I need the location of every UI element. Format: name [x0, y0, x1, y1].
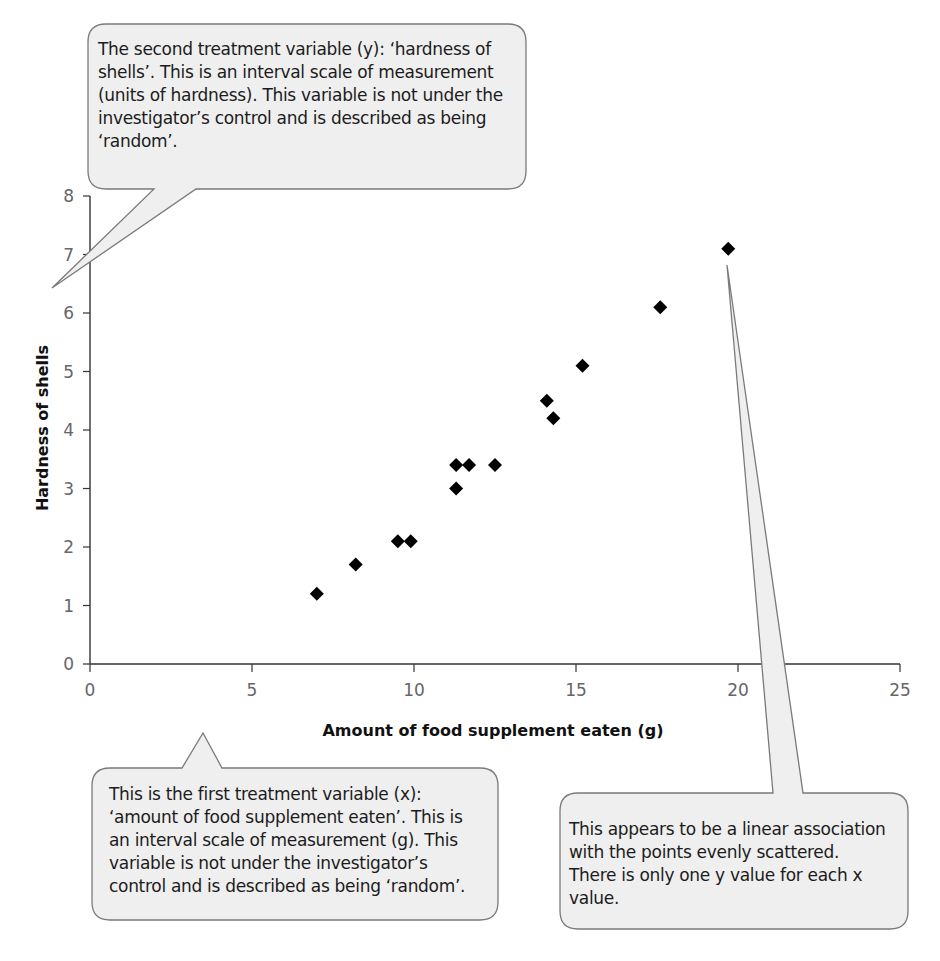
callout-line: ‘random’.	[98, 130, 503, 153]
callout-line: ‘amount of food supplement eaten’. This …	[109, 806, 465, 829]
callout-line: with the points evenly scattered.	[569, 841, 886, 864]
y-tick-label: 2	[63, 537, 74, 557]
x-tick-label: 0	[85, 680, 96, 700]
diamond-marker-icon	[349, 558, 363, 572]
x-tick-label: 25	[889, 680, 911, 700]
callout-line: This is the first treatment variable (x)…	[109, 783, 465, 806]
callout-y-variable-text: The second treatment variable (y): ‘hard…	[98, 38, 503, 153]
y-tick-label: 6	[63, 303, 74, 323]
diamond-marker-icon	[449, 458, 463, 472]
y-tick-label: 5	[63, 362, 74, 382]
x-tick-label: 5	[247, 680, 258, 700]
diamond-marker-icon	[404, 534, 418, 548]
callout-line: value.	[569, 887, 886, 910]
callout-line: investigator’s control and is described …	[98, 107, 503, 130]
diamond-marker-icon	[488, 458, 502, 472]
diamond-marker-icon	[721, 242, 735, 256]
y-tick-label: 7	[63, 245, 74, 265]
x-axis-title: Amount of food supplement eaten (g)	[322, 721, 663, 740]
data-points	[310, 242, 735, 601]
y-tick-label: 1	[63, 596, 74, 616]
y-tick-label: 3	[63, 479, 74, 499]
diamond-marker-icon	[462, 458, 476, 472]
diamond-marker-icon	[449, 482, 463, 496]
diamond-marker-icon	[310, 587, 324, 601]
callout-line: control and is described as being ‘rando…	[109, 875, 465, 898]
callout-line: variable is not under the investigator’s	[109, 852, 465, 875]
y-tick-label: 8	[63, 186, 74, 206]
callout-line: (units of hardness). This variable is no…	[98, 84, 503, 107]
x-tick-label: 15	[565, 680, 587, 700]
callout-line: an interval scale of measurement (g). Th…	[109, 829, 465, 852]
diamond-marker-icon	[653, 300, 667, 314]
callout-line: This appears to be a linear association	[569, 818, 886, 841]
callout-line: shells’. This is an interval scale of me…	[98, 61, 503, 84]
diamond-marker-icon	[575, 359, 589, 373]
diamond-marker-icon	[540, 394, 554, 408]
y-tick-label: 0	[63, 654, 74, 674]
axes: 0510152025012345678	[63, 186, 911, 700]
diamond-marker-icon	[546, 411, 560, 425]
callout-line: The second treatment variable (y): ‘hard…	[98, 38, 503, 61]
y-axis-title: Hardness of shells	[33, 345, 52, 511]
callout-line: There is only one y value for each x	[569, 864, 886, 887]
x-tick-label: 20	[727, 680, 749, 700]
x-tick-label: 10	[403, 680, 425, 700]
diamond-marker-icon	[391, 534, 405, 548]
callout-association-text: This appears to be a linear association …	[569, 818, 886, 910]
y-tick-label: 4	[63, 420, 74, 440]
callout-x-variable-text: This is the first treatment variable (x)…	[109, 783, 465, 898]
